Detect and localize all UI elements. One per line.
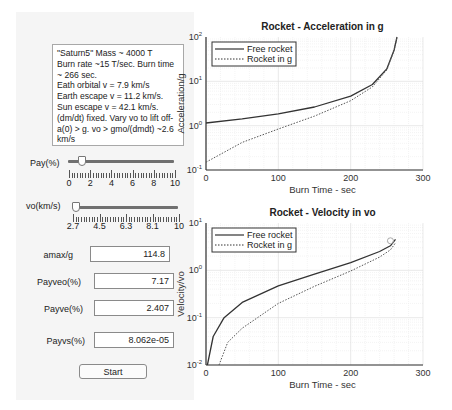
legend-label: Rocket in g [247, 54, 292, 64]
x-tick-label: 100 [271, 368, 286, 378]
x-tick-label: 200 [343, 368, 358, 378]
x-tick-label: 100 [271, 173, 286, 183]
acceleration-chart-plot: 010020030010-1100101102Rocket - Accelera… [175, 21, 431, 195]
y-tick-label: 10-1 [187, 312, 203, 323]
y-tick-label: 101 [189, 217, 203, 228]
chart-title: Rocket - Acceleration in g [261, 21, 383, 32]
y-tick-label: 101 [189, 75, 203, 86]
x-tick-label: 0 [203, 173, 208, 183]
legend-label: Rocket in g [247, 240, 292, 250]
legend-label: Free rocket [247, 230, 293, 240]
x-tick-label: 300 [415, 173, 430, 183]
legend: Free rocketRocket in g [212, 228, 296, 252]
x-tick-label: 300 [415, 368, 430, 378]
y-tick-label: 102 [189, 31, 203, 42]
y-tick-label: 100 [189, 120, 203, 131]
y-axis-label: Acceleration/g [175, 73, 186, 133]
x-axis-label: Burn Time - sec [289, 184, 356, 195]
velocity-chart-plot: 010020030010-210-1100101Rocket - Velocit… [175, 207, 431, 390]
x-tick-label: 200 [343, 173, 358, 183]
y-tick-label: 10-2 [187, 359, 203, 370]
y-tick-label: 10-1 [187, 164, 203, 175]
legend: Free rocketRocket in g [212, 42, 296, 66]
y-tick-label: 100 [189, 264, 203, 275]
x-tick-label: 0 [203, 368, 208, 378]
legend-label: Free rocket [247, 44, 293, 54]
x-axis-label: Burn Time - sec [289, 379, 356, 390]
acceleration-chart: 010020030010-1100101102Rocket - Accelera… [0, 0, 452, 410]
y-axis-label: Velocity/vo [175, 271, 186, 316]
chart-title: Rocket - Velocity in vo [269, 207, 375, 218]
